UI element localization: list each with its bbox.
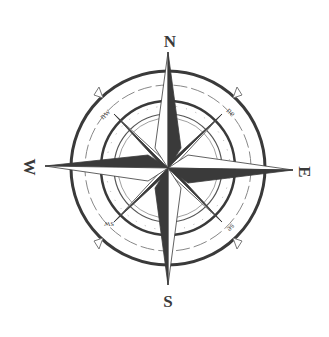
- southwest-label: sw: [104, 220, 115, 230]
- northeast-label: ne: [225, 105, 238, 118]
- east-label: E: [295, 166, 314, 177]
- south-label: S: [163, 292, 172, 311]
- north-label: N: [164, 32, 177, 51]
- west-label: W: [20, 159, 39, 176]
- cardinal-points: [45, 52, 293, 285]
- compass-rose: N S E W nw ne se sw: [0, 0, 329, 337]
- southeast-label: se: [225, 222, 237, 234]
